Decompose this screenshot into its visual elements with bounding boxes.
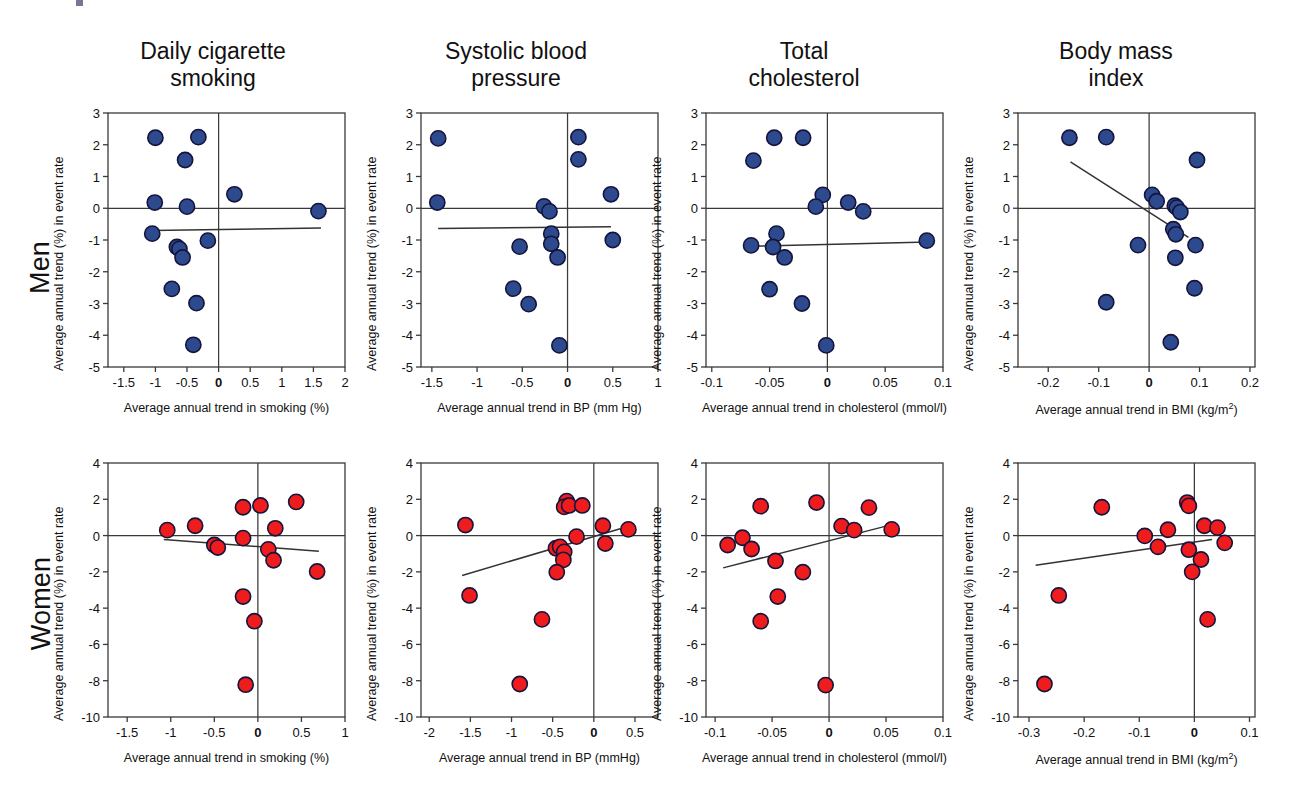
x-tick-label: 0.5 bbox=[613, 726, 657, 739]
data-point bbox=[770, 589, 785, 604]
data-point bbox=[569, 529, 584, 544]
data-point bbox=[796, 130, 811, 145]
y-tick-label: -5 bbox=[976, 361, 1010, 374]
y-tick-label: -2 bbox=[379, 266, 413, 279]
y-tick-label: -6 bbox=[664, 638, 698, 651]
x-axis-label: Average annual trend in BMI (kg/m2) bbox=[978, 401, 1295, 417]
data-point bbox=[289, 494, 304, 509]
y-tick-label: -4 bbox=[379, 329, 413, 342]
plot-area-women-cholesterol bbox=[660, 455, 965, 757]
figure-scatter-grid: Men Women Daily cigarette smoking Systol… bbox=[0, 0, 1302, 791]
x-tick-label: -0.3 bbox=[1007, 726, 1051, 739]
x-tick-label: -1 bbox=[149, 726, 193, 739]
data-point bbox=[512, 239, 527, 254]
plot-area-women-bmi bbox=[972, 455, 1277, 757]
y-tick-label: -10 bbox=[976, 711, 1010, 724]
data-point bbox=[1217, 535, 1232, 550]
data-point bbox=[571, 152, 586, 167]
y-tick-label: 0 bbox=[66, 530, 100, 543]
y-tick-label: 4 bbox=[379, 457, 413, 470]
y-tick-label: 0 bbox=[976, 530, 1010, 543]
y-tick-label: -6 bbox=[379, 638, 413, 651]
row-label-men: Men bbox=[25, 223, 56, 313]
x-tick-label: 0.5 bbox=[591, 376, 635, 389]
x-tick-label: -0.2 bbox=[1062, 726, 1106, 739]
data-point bbox=[575, 498, 590, 513]
data-point bbox=[1094, 500, 1109, 515]
y-tick-label: 4 bbox=[66, 457, 100, 470]
data-point bbox=[795, 565, 810, 580]
data-point bbox=[431, 131, 446, 146]
data-point bbox=[1210, 520, 1225, 535]
data-point bbox=[1130, 237, 1145, 252]
y-tick-label: -8 bbox=[379, 675, 413, 688]
y-tick-label: 0 bbox=[379, 202, 413, 215]
plot-area-men-smoking bbox=[62, 105, 367, 407]
data-point bbox=[808, 199, 823, 214]
y-tick-label: 2 bbox=[664, 493, 698, 506]
data-point bbox=[550, 250, 565, 265]
data-point bbox=[189, 296, 204, 311]
data-point bbox=[175, 250, 190, 265]
x-tick-label: -0.5 bbox=[531, 726, 575, 739]
data-point bbox=[571, 130, 586, 145]
x-axis-label: Average annual trend in smoking (%) bbox=[68, 401, 385, 415]
data-point bbox=[1137, 528, 1152, 543]
data-point bbox=[462, 588, 477, 603]
data-point bbox=[430, 195, 445, 210]
x-tick-label: 0 bbox=[1127, 376, 1171, 389]
y-tick-label: -10 bbox=[379, 711, 413, 724]
data-point bbox=[521, 297, 536, 312]
data-point bbox=[595, 518, 610, 533]
x-tick-label: 0.1 bbox=[921, 376, 965, 389]
y-tick-label: -6 bbox=[66, 638, 100, 651]
y-tick-label: 0 bbox=[664, 530, 698, 543]
y-tick-label: -8 bbox=[664, 675, 698, 688]
y-axis-label: Average annual trend (%) in event rate bbox=[650, 157, 664, 371]
data-point bbox=[605, 232, 620, 247]
x-tick-label: 2 bbox=[323, 376, 367, 389]
y-tick-label: -8 bbox=[66, 675, 100, 688]
y-axis-label: Average annual trend (%) in event rate bbox=[650, 507, 664, 721]
data-point bbox=[746, 153, 761, 168]
y-tick-label: -4 bbox=[66, 329, 100, 342]
x-tick-label: 0 bbox=[807, 726, 851, 739]
data-point bbox=[266, 553, 281, 568]
data-point bbox=[512, 676, 527, 691]
x-tick-label: -0.1 bbox=[693, 726, 737, 739]
y-tick-label: 0 bbox=[664, 202, 698, 215]
data-point bbox=[1160, 522, 1175, 537]
x-axis-label: Average annual trend in BMI (kg/m2) bbox=[978, 751, 1295, 767]
y-tick-label: -1 bbox=[66, 234, 100, 247]
y-tick-label: 1 bbox=[664, 171, 698, 184]
data-point bbox=[148, 130, 163, 145]
x-tick-label: 0.1 bbox=[921, 726, 965, 739]
y-tick-label: 4 bbox=[976, 457, 1010, 470]
data-point bbox=[841, 195, 856, 210]
y-tick-label: 0 bbox=[976, 202, 1010, 215]
x-tick-label: 0.05 bbox=[863, 376, 907, 389]
data-point bbox=[542, 204, 557, 219]
data-point bbox=[506, 281, 521, 296]
data-point bbox=[818, 677, 833, 692]
data-point bbox=[861, 500, 876, 515]
y-tick-label: -4 bbox=[664, 602, 698, 615]
x-tick-label: -0.05 bbox=[750, 726, 794, 739]
y-tick-label: -6 bbox=[976, 638, 1010, 651]
data-point bbox=[268, 521, 283, 536]
data-point bbox=[552, 338, 567, 353]
data-point bbox=[1099, 130, 1114, 145]
data-point bbox=[603, 187, 618, 202]
x-tick-label: 0.05 bbox=[864, 726, 908, 739]
data-point bbox=[621, 522, 636, 537]
y-axis-label: Average annual trend (%) in event rate bbox=[365, 157, 379, 371]
data-point bbox=[753, 499, 768, 514]
x-tick-label: -1 bbox=[490, 726, 534, 739]
x-tick-label: -1.5 bbox=[410, 376, 454, 389]
data-point bbox=[145, 226, 160, 241]
y-tick-label: 2 bbox=[379, 493, 413, 506]
y-tick-label: -2 bbox=[664, 566, 698, 579]
data-point bbox=[235, 589, 250, 604]
x-tick-label: -1 bbox=[455, 376, 499, 389]
data-point bbox=[1181, 498, 1196, 513]
